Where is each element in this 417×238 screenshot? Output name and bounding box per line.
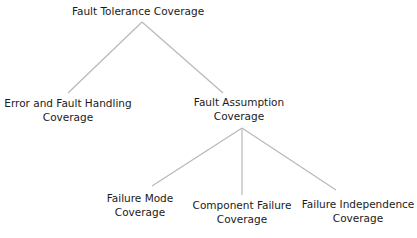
node-label-line2: Coverage [193,212,292,226]
node-label-line2: Coverage [107,205,174,219]
node-fault-tolerance-coverage: Fault Tolerance Coverage [72,4,204,18]
node-label-line2: Coverage [194,109,284,123]
node-label: Fault Tolerance Coverage [72,4,204,18]
node-fault-assumption-coverage: Fault Assumption Coverage [194,95,284,123]
node-component-failure-coverage: Component Failure Coverage [193,198,292,226]
node-label-line1: Component Failure [193,198,292,212]
node-label-line1: Error and Fault Handling [4,96,131,110]
node-label-line1: Failure Mode [107,191,174,205]
node-label-line2: Coverage [302,211,415,225]
node-error-fault-handling-coverage: Error and Fault Handling Coverage [4,96,131,124]
edge-root-to-error-fault-handling [68,22,142,93]
node-label-line1: Fault Assumption [194,95,284,109]
node-label-line2: Coverage [4,110,131,124]
edge-root-to-fault-assumption [142,22,223,93]
edge-fault-assumption-to-failure-independence [242,128,336,190]
node-failure-mode-coverage: Failure Mode Coverage [107,191,174,219]
node-failure-independence-coverage: Failure Independence Coverage [302,197,415,225]
edge-fault-assumption-to-failure-mode [152,128,242,186]
node-label-line1: Failure Independence [302,197,415,211]
